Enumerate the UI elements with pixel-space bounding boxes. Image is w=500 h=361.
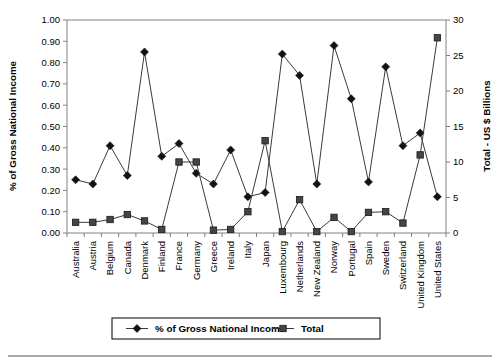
x-axis-label: Spain — [363, 241, 374, 265]
x-axis-label: Japan — [260, 241, 271, 267]
chart-container: 0.000.100.200.300.400.500.600.700.800.90… — [0, 0, 500, 361]
y-tick-label-left: 0.70 — [42, 78, 61, 89]
data-point-square — [331, 214, 337, 220]
x-axis-label: Canada — [122, 240, 133, 274]
data-point-square — [434, 35, 440, 41]
y-tick-label-right: 10 — [453, 156, 464, 167]
x-axis-label: Netherlands — [294, 241, 305, 292]
data-point-square — [176, 159, 182, 165]
x-axis-label: France — [173, 241, 184, 271]
y-axis-left-title: % of Gross National Income — [7, 60, 18, 191]
y-tick-label-left: 0.20 — [42, 185, 61, 196]
x-axis-label: Sweden — [380, 241, 391, 275]
data-point-square — [383, 209, 389, 215]
x-axis-label: Finland — [156, 241, 167, 272]
data-point-square — [348, 228, 354, 234]
x-axis-label: Denmark — [139, 241, 150, 280]
data-point-square — [141, 218, 147, 224]
combination-line-chart: 0.000.100.200.300.400.500.600.700.800.90… — [0, 0, 500, 361]
y-tick-label-left: 0.80 — [42, 57, 61, 68]
y-tick-label-right: 15 — [453, 121, 464, 132]
x-axis-label: Switzerland — [397, 241, 408, 290]
x-axis-label: United Kingdom — [415, 241, 426, 309]
x-axis-label: Luxembourg — [277, 241, 288, 294]
x-axis-label: United States — [432, 241, 443, 298]
data-point-square — [210, 227, 216, 233]
data-point-square — [90, 219, 96, 225]
data-point-square — [107, 216, 113, 222]
data-point-square — [417, 152, 423, 158]
data-point-square — [400, 220, 406, 226]
x-axis-label: Ireland — [225, 241, 236, 270]
x-axis-label: New Zealand — [311, 241, 322, 297]
data-point-square — [72, 219, 78, 225]
data-point-square — [365, 209, 371, 215]
x-axis-label: Greece — [208, 241, 219, 272]
y-tick-label-left: 1.00 — [42, 14, 61, 25]
y-tick-label-right: 5 — [453, 192, 458, 203]
data-point-square — [279, 228, 285, 234]
x-axis-label: Australia — [70, 240, 81, 278]
y-tick-label-left: 0.30 — [42, 164, 61, 175]
x-axis-label: Germany — [191, 241, 202, 280]
y-tick-label-left: 0.90 — [42, 36, 61, 47]
data-point-square — [124, 211, 130, 217]
x-axis-label: Austria — [87, 240, 98, 270]
chart-legend: % of Gross National IncomeTotal — [112, 318, 380, 339]
data-point-square — [314, 228, 320, 234]
y-tick-label-left: 0.10 — [42, 206, 61, 217]
y-tick-label-right: 25 — [453, 50, 464, 61]
x-axis-label: Norway — [328, 241, 339, 273]
x-axis-label: Belgium — [104, 241, 115, 275]
y-tick-label-left: 0.50 — [42, 121, 61, 132]
data-point-square — [296, 196, 302, 202]
y-tick-label-right: 0 — [453, 227, 458, 238]
data-point-square — [193, 159, 199, 165]
data-point-square — [227, 226, 233, 232]
y-tick-label-left: 0.60 — [42, 100, 61, 111]
data-point-square — [245, 209, 251, 215]
y-tick-label-left: 0.00 — [42, 227, 61, 238]
x-axis-label: Italy — [242, 241, 253, 259]
y-tick-label-left: 0.40 — [42, 142, 61, 153]
y-tick-label-right: 30 — [453, 14, 464, 25]
legend-label: Total — [301, 323, 324, 334]
legend-marker-square — [280, 325, 286, 331]
data-point-square — [262, 138, 268, 144]
y-tick-label-right: 20 — [453, 85, 464, 96]
y-axis-right-title: Total - US $ Billions — [481, 80, 492, 172]
legend-label: % of Gross National Income — [155, 323, 286, 334]
data-point-square — [159, 226, 165, 232]
x-axis-label: Portugal — [346, 241, 357, 276]
